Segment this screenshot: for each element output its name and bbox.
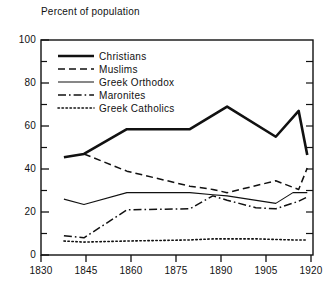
y-tick-label-60: 60	[10, 120, 36, 131]
y-axis-minor-ticks	[41, 62, 47, 234]
legend-label-muslims: Muslims	[99, 64, 138, 75]
plot-frame	[41, 40, 313, 255]
x-tick-label-1860: 1860	[111, 265, 151, 276]
series-line-christians	[64, 107, 307, 158]
line-chart-plot	[0, 0, 332, 288]
series-line-greek-orthodox	[64, 193, 307, 205]
series-line-muslims	[84, 154, 307, 193]
x-tick-label-1905: 1905	[246, 265, 286, 276]
y-tick-label-20: 20	[10, 206, 36, 217]
y-tick-label-80: 80	[10, 77, 36, 88]
x-tick-label-1845: 1845	[66, 265, 106, 276]
y-tick-label-0: 0	[10, 249, 36, 260]
legend-label-greek-orthodox: Greek Orthodox	[99, 77, 174, 88]
series-layer	[64, 107, 307, 242]
x-tick-label-1830: 1830	[21, 265, 61, 276]
legend-label-christians: Christians	[99, 51, 146, 62]
legend-label-maronites: Maronites	[99, 90, 146, 101]
series-line-greek-catholics	[64, 239, 307, 242]
x-axis-ticks	[41, 255, 311, 262]
x-tick-label-1875: 1875	[156, 265, 196, 276]
x-tick-label-1890: 1890	[201, 265, 241, 276]
legend-label-greek-catholics: Greek Catholics	[99, 103, 175, 114]
y-tick-label-100: 100	[10, 34, 36, 45]
x-tick-label-1920: 1920	[291, 265, 331, 276]
legend-swatches	[58, 56, 94, 108]
chart-figure: Percent of population	[0, 0, 332, 288]
y-tick-label-40: 40	[10, 163, 36, 174]
